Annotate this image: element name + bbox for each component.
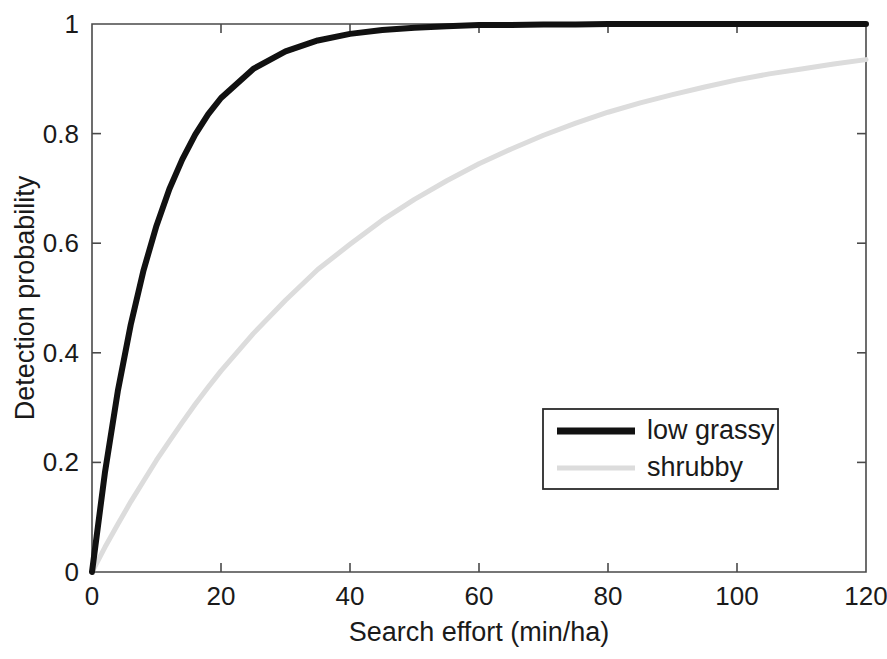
y-tick-label: 0 (65, 557, 79, 587)
legend-label-low-grassy: low grassy (647, 415, 775, 445)
legend-label-shrubby: shrubby (647, 452, 744, 482)
x-tick-label: 120 (844, 581, 887, 611)
x-tick-label: 40 (336, 581, 365, 611)
y-tick-label: 0.8 (43, 119, 79, 149)
y-axis-tick-labels: 00.20.40.60.81 (43, 9, 79, 587)
x-axis-title: Search effort (min/ha) (349, 617, 610, 647)
x-tick-label: 100 (715, 581, 758, 611)
chart-canvas: 020406080100120 00.20.40.60.81 Search ef… (0, 0, 887, 659)
chart-legend[interactable]: low grassyshrubby (543, 409, 778, 489)
y-axis-title: Detection probability (10, 175, 40, 420)
y-tick-label: 0.2 (43, 447, 79, 477)
x-tick-label: 80 (594, 581, 623, 611)
detection-probability-figure: 020406080100120 00.20.40.60.81 Search ef… (0, 0, 887, 659)
x-tick-label: 20 (207, 581, 236, 611)
y-tick-label: 0.6 (43, 228, 79, 258)
x-axis-tick-labels: 020406080100120 (85, 581, 887, 611)
series-line-shrubby (92, 60, 866, 572)
x-tick-label: 0 (85, 581, 99, 611)
y-tick-label: 0.4 (43, 338, 79, 368)
x-tick-label: 60 (465, 581, 494, 611)
y-tick-label: 1 (65, 9, 79, 39)
